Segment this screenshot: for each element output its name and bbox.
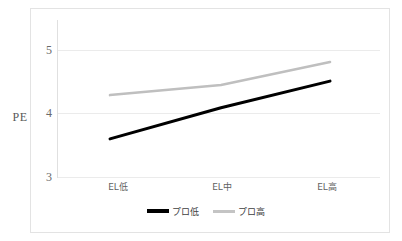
legend-entry-pro-low: プロ低 (147, 205, 199, 218)
legend-swatch-pro-high (213, 210, 235, 213)
legend-label-pro-high: プロ高 (238, 205, 265, 218)
series-line-pro-low (110, 81, 330, 139)
legend: プロ低 プロ高 (131, 202, 281, 220)
legend-label-pro-low: プロ低 (172, 205, 199, 218)
legend-entry-pro-high: プロ高 (213, 205, 265, 218)
legend-swatch-pro-low (147, 209, 169, 213)
line-chart: PE 5 4 3 EL低 EL中 EL高 プロ低 プロ高 (0, 0, 402, 241)
